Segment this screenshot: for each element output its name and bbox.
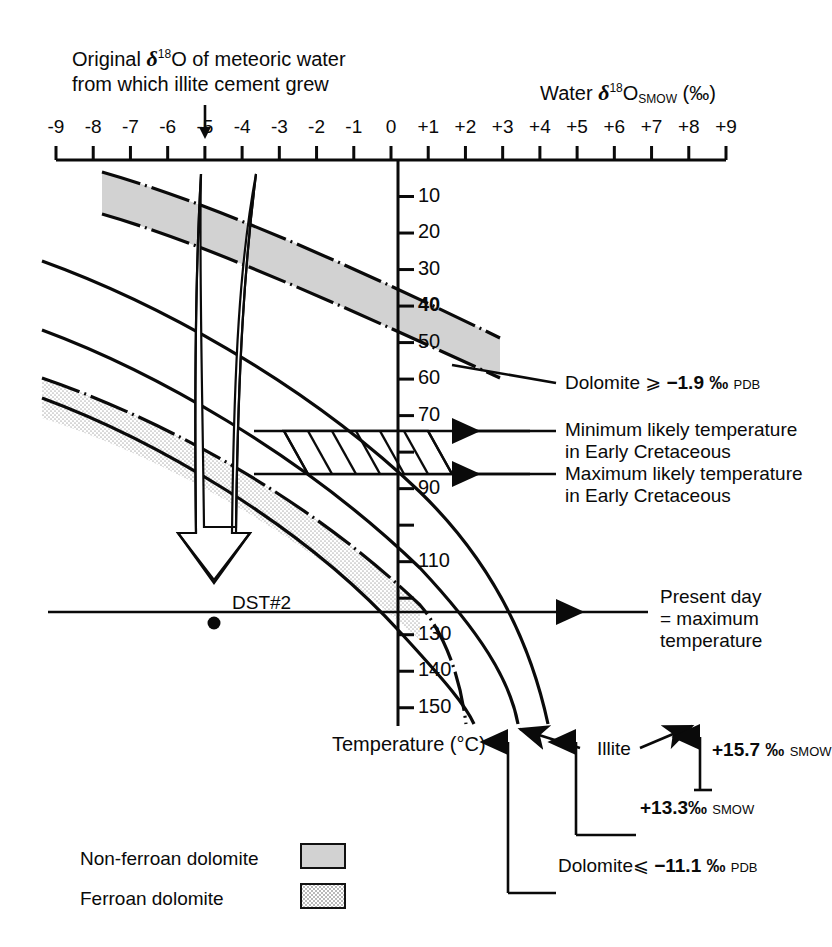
x-tick-label--2: -2 [297, 116, 337, 138]
x-tick-label-+8: +8 [669, 116, 709, 138]
callout-157-value: +15.7 [712, 739, 760, 760]
degree-symbol: ° [457, 733, 465, 755]
x-tick-label-+1: +1 [408, 116, 448, 138]
x-delta-symbol: δ [598, 80, 609, 105]
x-tick-label-+9: +9 [706, 116, 746, 138]
band-ferroan [42, 378, 420, 640]
callout-illite-157: +15.7 ‰ SMOW [712, 739, 832, 761]
delta-symbol: δ [146, 46, 157, 71]
callout-133-scale: SMOW [712, 802, 754, 817]
callout-133-value: +13.3 [640, 797, 688, 818]
x-tick-label--1: -1 [334, 116, 374, 138]
callout-present-day-line3: temperature [660, 630, 762, 652]
x-tick-label-+3: +3 [483, 116, 523, 138]
x-axis-title-sub: SMOW [638, 92, 677, 106]
callout-dolomite-lower-value: −11.1 [654, 855, 701, 876]
x-tick-label--3: -3 [259, 116, 299, 138]
y-axis-title: Temperature (°C) [332, 733, 486, 757]
callout-157-permil: ‰ [765, 739, 784, 760]
x-delta-superscript: 18 [609, 81, 622, 95]
band-non-ferroan [102, 172, 500, 378]
legend-swatch-ferroan [300, 883, 346, 909]
callout-dolomite-upper-op: ⩾ [645, 372, 661, 393]
x-axis-title: Water δ18OSMOW (‰) [540, 80, 716, 106]
callout-present-day-line1: Present day [660, 586, 761, 608]
callout-min-temp-line2: in Early Cretaceous [565, 441, 731, 463]
x-axis-title-pre: Water [540, 82, 598, 104]
callout-min-temp-line1: Minimum likely temperature [565, 419, 797, 441]
callout-dolomite-lower-pre: Dolomite [558, 855, 633, 876]
x-tick-label--7: -7 [110, 116, 150, 138]
x-tick-label-+5: +5 [557, 116, 597, 138]
callout-dolomite-lower-scale: PDB [731, 860, 758, 875]
legend-label-ferroan: Ferroan dolomite [80, 888, 224, 910]
x-tick-label-+6: +6 [594, 116, 634, 138]
callout-dolomite-lower: Dolomite⩽ −11.1 ‰ PDB [558, 855, 758, 877]
callout-dolomite-upper-value: −1.9 [666, 372, 704, 393]
x-axis-title-units: (‰) [683, 82, 716, 104]
meteoric-line1-post: O of meteoric water [171, 48, 346, 70]
dst-marker-dot [208, 617, 221, 630]
leader-dolomite-upper [452, 365, 556, 383]
y-tick-label-40: 40 [418, 293, 440, 316]
leader-illite-right [640, 726, 692, 748]
dst-label: DST#2 [232, 592, 291, 614]
x-axis-title-mid: O [623, 82, 639, 104]
x-tick-label--4: -4 [222, 116, 262, 138]
callout-133-permil: ‰ [688, 797, 707, 818]
leader-illite-left [520, 729, 580, 748]
y-tick-label-90: 90 [418, 476, 440, 499]
callout-max-temp-line1: Maximum likely temperature [565, 463, 803, 485]
callout-dolomite-upper-scale: PDB [734, 377, 761, 392]
x-tick-label-+7: +7 [632, 116, 672, 138]
y-axis-title-post: C) [465, 733, 486, 755]
callout-illite-133: +13.3‰ SMOW [640, 797, 754, 819]
callout-present-day-line2: = maximum [660, 608, 759, 630]
callout-dolomite-lower-op: ⩽ [633, 855, 649, 876]
cretaceous-window-hatch [284, 431, 452, 474]
meteoric-line1-pre: Original [72, 48, 146, 70]
callout-157-scale: SMOW [790, 744, 832, 759]
y-tick-label-20: 20 [418, 220, 440, 243]
x-tick-label--9: -9 [36, 116, 76, 138]
y-tick-label-50: 50 [418, 330, 440, 353]
y-tick-label-140: 140 [418, 658, 451, 681]
callout-dolomite-upper-pre: Dolomite [565, 372, 645, 393]
callout-max-temp-line2: in Early Cretaceous [565, 485, 731, 507]
y-tick-label-130: 130 [418, 622, 451, 645]
meteoric-line2: from which illite cement grew [72, 73, 329, 97]
legend-swatch-non-ferroan [300, 843, 346, 869]
curve-non-ferroan-lower [102, 214, 500, 378]
x-tick-label-+2: +2 [445, 116, 485, 138]
delta-superscript: 18 [158, 47, 171, 61]
y-tick-label-60: 60 [418, 366, 440, 389]
y-axis-title-pre: Temperature ( [332, 733, 457, 755]
y-tick-label-110: 110 [418, 549, 450, 572]
illite-label: Illite [597, 738, 631, 760]
legend-label-non-ferroan: Non-ferroan dolomite [80, 848, 258, 870]
x-tick-label--8: -8 [73, 116, 113, 138]
x-axis [56, 146, 726, 160]
y-tick-label-10: 10 [418, 184, 440, 207]
x-tick-label--5: -5 [185, 116, 225, 138]
y-tick-label-30: 30 [418, 257, 440, 280]
callout-dolomite-upper: Dolomite ⩾ −1.9 ‰ PDB [565, 372, 760, 394]
x-tick-label--6: -6 [148, 116, 188, 138]
meteoric-annotation: Original δ18O of meteoric water [72, 46, 346, 72]
x-tick-label-0: 0 [371, 116, 411, 138]
permil-symbol: ‰ [709, 372, 728, 393]
y-tick-label-70: 70 [418, 403, 440, 426]
x-tick-label-+4: +4 [520, 116, 560, 138]
callout-dolomite-lower-permil: ‰ [707, 855, 726, 876]
y-tick-label-150: 150 [418, 695, 451, 718]
